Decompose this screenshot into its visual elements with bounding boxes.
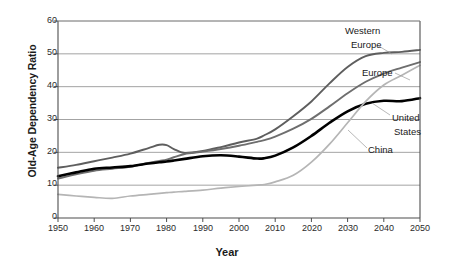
series-label-china: China	[368, 144, 393, 155]
y-tick-0: 0	[31, 211, 57, 221]
series-label-western-europe-line1: Western	[345, 25, 380, 36]
x-tick-1990: 1990	[183, 223, 223, 233]
x-tick-2040: 2040	[364, 223, 404, 233]
x-tick-1980: 1980	[146, 223, 186, 233]
x-tick-2050: 2050	[400, 223, 440, 233]
y-tick-10: 10	[31, 178, 57, 188]
y-tick-50: 50	[31, 47, 57, 57]
x-tick-2010: 2010	[255, 223, 295, 233]
series-label-united-states-line1: United	[392, 112, 419, 123]
x-tick-2000: 2000	[219, 223, 259, 233]
axis-ticks	[54, 21, 420, 222]
series-label-united-states-line2: States	[394, 126, 421, 137]
y-tick-60: 60	[31, 15, 57, 25]
y-tick-30: 30	[31, 113, 57, 123]
y-tick-40: 40	[31, 80, 57, 90]
x-tick-1970: 1970	[110, 223, 150, 233]
series-label-western-europe-line2: Europe	[351, 39, 382, 50]
x-axis-title: Year	[0, 246, 454, 258]
y-tick-20: 20	[31, 146, 57, 156]
series-label-europe: Europe	[362, 67, 393, 78]
x-tick-1950: 1950	[38, 223, 78, 233]
chart-container: Old-Age Dependency Ratio Year 60 50 40 3…	[0, 0, 454, 275]
x-tick-2030: 2030	[328, 223, 368, 233]
x-tick-2020: 2020	[292, 223, 332, 233]
line-chart-plot	[0, 0, 454, 275]
x-tick-1960: 1960	[74, 223, 114, 233]
